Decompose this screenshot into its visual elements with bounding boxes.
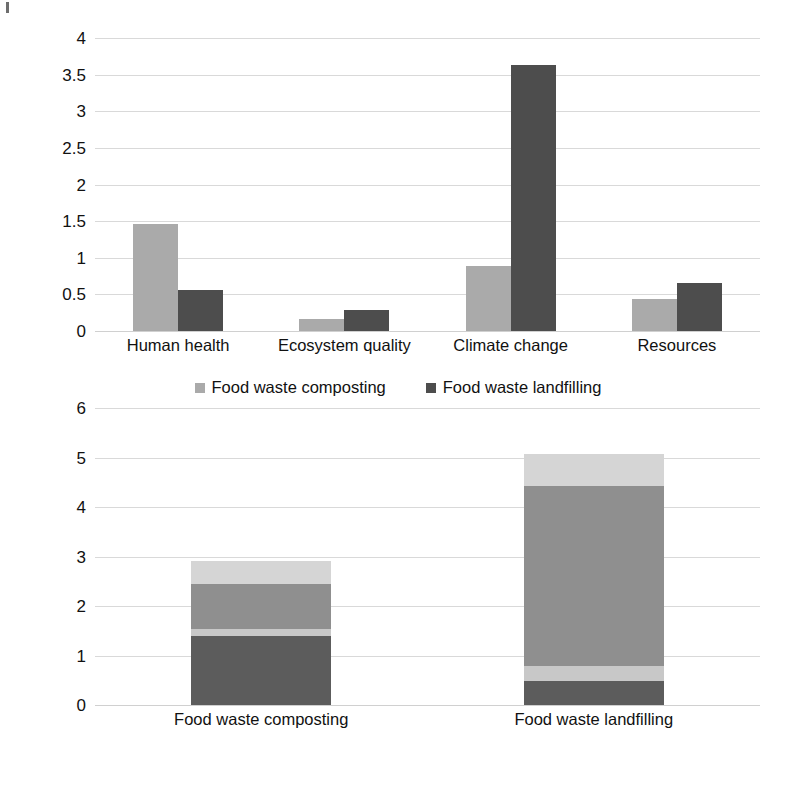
stacked-bar (191, 561, 331, 705)
y-axis-tick-label: 3.5 (62, 66, 86, 83)
stack-segment (191, 636, 331, 705)
y-axis-tick-label: 3 (77, 548, 86, 565)
grouped-bar-chart: Points 00.511.522.533.54Human healthEcos… (0, 10, 796, 395)
stack-segment (524, 666, 664, 680)
bar (299, 319, 344, 331)
y-axis-tick-label: 5 (77, 449, 86, 466)
y-axis-tick-label: 1 (77, 249, 86, 266)
y-axis-tick-label: 4 (77, 30, 86, 47)
plot-area-top: 00.511.522.533.54Human healthEcosystem q… (95, 38, 760, 331)
bar-group: Climate change (428, 38, 594, 331)
stack-segment (524, 486, 664, 667)
figure-page: Points 00.511.522.533.54Human healthEcos… (0, 0, 796, 796)
x-axis-category-label: Climate change (453, 336, 568, 355)
legend-swatch-icon (195, 383, 205, 393)
x-axis-category-label: Ecosystem quality (278, 336, 411, 355)
x-axis-category-label: Human health (127, 336, 230, 355)
y-axis-tick-label: 6 (77, 400, 86, 417)
bar-group: Resources (594, 38, 760, 331)
bar (178, 290, 223, 331)
bar (133, 224, 178, 331)
y-axis-tick-label: 2.5 (62, 139, 86, 156)
stacked-bar (524, 454, 664, 705)
stack-segment (524, 681, 664, 705)
legend-swatch-icon (426, 383, 436, 393)
bar-group: Ecosystem quality (261, 38, 427, 331)
stack-segment (524, 454, 664, 486)
plot-area-bottom: 0123456Food waste compostingFood waste l… (95, 408, 760, 705)
legend-item[interactable]: Food waste composting (195, 378, 386, 397)
bar-group: Human health (95, 38, 261, 331)
gridline (95, 331, 760, 332)
y-axis-tick-label: 1 (77, 647, 86, 664)
stack-segment (191, 561, 331, 584)
x-axis-category-label: Food waste landfilling (514, 710, 673, 729)
legend-item[interactable]: Food waste landfilling (426, 378, 602, 397)
y-axis-tick-label: 0 (77, 323, 86, 340)
legend-label: Food waste composting (212, 378, 386, 397)
bar (344, 310, 389, 331)
bar (466, 266, 511, 331)
legend-label: Food waste landfilling (443, 378, 602, 397)
stacked-bar-group: Food waste landfilling (524, 408, 664, 705)
stacked-bar-chart: Points 0123456Food waste compostingFood … (0, 398, 796, 788)
y-axis-tick-label: 4 (77, 499, 86, 516)
stack-segment (191, 629, 331, 636)
bar (677, 283, 722, 331)
y-axis-tick-label: 2 (77, 598, 86, 615)
stack-segment (191, 584, 331, 629)
legend-top: Food waste compostingFood waste landfill… (0, 378, 796, 397)
y-axis-tick-label: 0 (77, 697, 86, 714)
y-axis-tick-label: 2 (77, 176, 86, 193)
bar (632, 299, 677, 331)
x-axis-category-label: Food waste composting (174, 710, 348, 729)
bar (511, 65, 556, 331)
y-axis-tick-label: 3 (77, 103, 86, 120)
y-axis-tick-label: 0.5 (62, 286, 86, 303)
stacked-bar-group: Food waste composting (191, 408, 331, 705)
gridline (95, 705, 760, 706)
x-axis-category-label: Resources (637, 336, 716, 355)
y-axis-tick-label: 1.5 (62, 213, 86, 230)
